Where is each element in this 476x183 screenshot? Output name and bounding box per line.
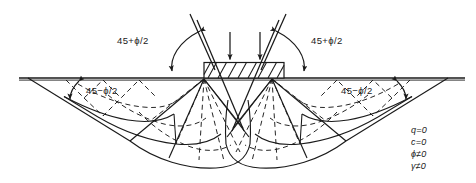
label-angle-surface-right: 45−ϕ/2: [341, 85, 373, 96]
legend-line-q: q=0: [411, 125, 427, 135]
legend-line-c: c=0: [411, 137, 426, 147]
soil-conditions-legend: q=0 c=0 ϕ≠0 γ≠0: [411, 125, 427, 171]
label-angle-top-left: 45+ϕ/2: [117, 35, 149, 46]
left-failure-zone: [28, 78, 250, 168]
applied-load-arrows: [230, 32, 260, 60]
legend-line-gamma: γ≠0: [411, 161, 426, 171]
bearing-capacity-diagram: 45+ϕ/2 45+ϕ/2 45−ϕ/2 45−ϕ/2 q=0 c=0 ϕ≠0 …: [0, 0, 476, 183]
angle-arc-top-left: [172, 31, 200, 71]
label-angle-top-right: 45+ϕ/2: [311, 35, 343, 46]
angle-arc-surface-left: [70, 81, 79, 99]
legend-line-phi: ϕ≠0: [411, 149, 427, 159]
label-angle-surface-left: 45−ϕ/2: [86, 85, 118, 96]
angle-arc-surface-right: [397, 81, 406, 99]
